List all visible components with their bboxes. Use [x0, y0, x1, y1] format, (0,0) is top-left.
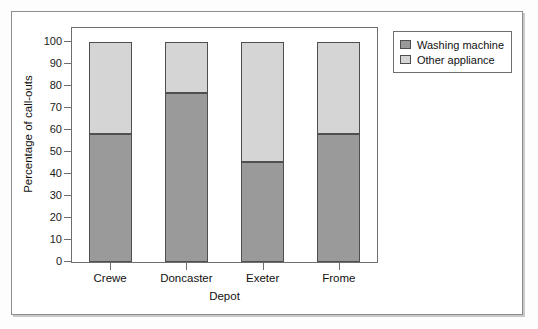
bar-segment[interactable] [89, 134, 132, 262]
bar-segment[interactable] [317, 134, 360, 262]
y-axis-tick-label: 70 [0, 101, 62, 113]
legend-item-washing-machine: Washing machine [400, 37, 504, 52]
chart-legend: Washing machine Other appliance [393, 31, 512, 73]
x-axis-tick [186, 263, 187, 270]
legend-label-other-appliance: Other appliance [417, 54, 495, 66]
y-axis-tick-label: 10 [0, 233, 62, 245]
bar-segment[interactable] [165, 42, 208, 93]
bar-segment[interactable] [165, 93, 208, 262]
y-axis-tick-label: 30 [0, 189, 62, 201]
x-axis-tick [263, 263, 264, 270]
legend-swatch-washing-machine [400, 40, 411, 49]
bar-segment[interactable] [317, 42, 360, 134]
y-axis-tick-label: 50 [0, 145, 62, 157]
y-axis-tick-label: 20 [0, 211, 62, 223]
y-axis-tick-label: 60 [0, 123, 62, 135]
y-axis-tick-label: 40 [0, 167, 62, 179]
x-axis-tick [110, 263, 111, 270]
bar-group[interactable] [317, 42, 360, 262]
legend-item-other-appliance: Other appliance [400, 52, 504, 67]
figure-root: Percentage of call-outs 1009080706050403… [0, 0, 538, 329]
legend-label-washing-machine: Washing machine [417, 39, 504, 51]
y-axis-tick-label: 0 [0, 255, 62, 267]
stacked-bar-chart: Percentage of call-outs 1009080706050403… [0, 0, 538, 329]
bar-segment[interactable] [89, 42, 132, 134]
bar-segment[interactable] [241, 162, 284, 262]
legend-swatch-other-appliance [400, 55, 411, 64]
bar-segment[interactable] [241, 42, 284, 162]
x-axis-title: Depot [72, 290, 377, 302]
y-axis-tick-label: 100 [0, 35, 62, 47]
y-axis-tick-label: 90 [0, 57, 62, 69]
bar-group[interactable] [89, 42, 132, 262]
plot-area [72, 42, 377, 262]
y-axis-tick-label: 80 [0, 79, 62, 91]
bar-group[interactable] [241, 42, 284, 262]
bar-group[interactable] [165, 42, 208, 262]
x-axis-tick-label: Frome [294, 272, 384, 284]
x-axis-tick [339, 263, 340, 270]
